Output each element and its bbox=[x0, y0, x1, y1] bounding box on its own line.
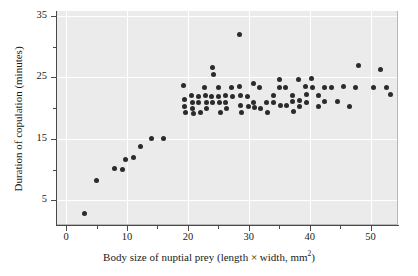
x-tick-minor bbox=[218, 226, 219, 229]
x-tick-minor bbox=[279, 226, 280, 229]
data-point bbox=[239, 110, 244, 115]
data-point bbox=[271, 100, 276, 105]
data-point bbox=[264, 100, 269, 105]
gridline-vertical bbox=[127, 11, 128, 224]
y-tick-minor bbox=[53, 170, 57, 171]
data-point bbox=[204, 106, 209, 111]
x-tick-label: 30 bbox=[229, 231, 269, 242]
data-point bbox=[252, 105, 257, 110]
data-point bbox=[329, 85, 334, 90]
data-point bbox=[335, 99, 340, 104]
data-point bbox=[190, 106, 195, 111]
gridline-horizontal bbox=[57, 200, 397, 201]
data-point bbox=[120, 167, 125, 172]
y-tick-label: 5 bbox=[17, 193, 47, 204]
data-point bbox=[138, 144, 143, 149]
y-tick-major bbox=[51, 16, 57, 17]
data-point bbox=[229, 85, 234, 90]
y-tick-major bbox=[51, 200, 57, 201]
gridline-vertical bbox=[249, 11, 250, 224]
y-tick-label: 35 bbox=[17, 9, 47, 20]
y-axis-spine bbox=[56, 11, 57, 226]
data-point bbox=[310, 85, 315, 90]
data-point bbox=[304, 92, 309, 97]
data-point bbox=[204, 100, 209, 105]
gridline-horizontal bbox=[57, 77, 397, 78]
data-point bbox=[341, 84, 346, 89]
data-point bbox=[237, 32, 242, 37]
scatter-plot-figure: Body size of nuptial prey (length × widt… bbox=[0, 0, 418, 276]
data-point bbox=[371, 85, 376, 90]
data-point bbox=[258, 106, 263, 111]
gridline-horizontal bbox=[57, 139, 397, 140]
data-point bbox=[218, 110, 223, 115]
x-tick-minor bbox=[97, 226, 98, 229]
data-point bbox=[203, 93, 208, 98]
data-point bbox=[224, 106, 229, 111]
data-point bbox=[210, 100, 215, 105]
x-axis-label-text: Body size of nuptial prey (length × widt… bbox=[103, 251, 307, 263]
data-point bbox=[296, 77, 301, 82]
data-point bbox=[388, 92, 393, 97]
x-tick-label: 50 bbox=[351, 231, 391, 242]
data-point bbox=[230, 94, 235, 99]
x-tick-label: 40 bbox=[290, 231, 330, 242]
gridline-vertical bbox=[188, 11, 189, 224]
x-axis-spine bbox=[56, 225, 399, 226]
data-point bbox=[251, 81, 256, 86]
data-point bbox=[378, 67, 383, 72]
y-tick-minor bbox=[53, 47, 57, 48]
y-tick-major bbox=[51, 139, 57, 140]
x-tick-minor bbox=[157, 226, 158, 229]
x-tick-label: 0 bbox=[46, 231, 86, 242]
gridline-vertical bbox=[310, 11, 311, 224]
x-tick-label: 10 bbox=[107, 231, 147, 242]
data-point bbox=[384, 85, 389, 90]
gridline-vertical bbox=[66, 11, 67, 224]
data-point bbox=[216, 85, 221, 90]
plot-panel bbox=[57, 11, 398, 225]
y-tick-label: 15 bbox=[17, 132, 47, 143]
data-point bbox=[290, 93, 295, 98]
gridline-vertical bbox=[371, 11, 372, 224]
data-point bbox=[183, 110, 188, 115]
data-point bbox=[322, 85, 327, 90]
data-point bbox=[198, 110, 203, 115]
data-point bbox=[190, 100, 195, 105]
x-tick-minor bbox=[340, 226, 341, 229]
data-point bbox=[182, 97, 187, 102]
data-point bbox=[196, 94, 201, 99]
y-tick-label: 25 bbox=[17, 70, 47, 81]
data-point bbox=[304, 100, 309, 105]
x-tick-label: 20 bbox=[168, 231, 208, 242]
gridline-horizontal bbox=[57, 16, 397, 17]
y-tick-major bbox=[51, 77, 57, 78]
x-axis-label-tail: ) bbox=[311, 251, 315, 263]
data-point bbox=[251, 100, 256, 105]
data-point bbox=[223, 100, 228, 105]
x-axis-label: Body size of nuptial prey (length × widt… bbox=[0, 249, 418, 263]
data-point bbox=[265, 110, 270, 115]
y-tick-minor bbox=[53, 108, 57, 109]
data-point bbox=[191, 111, 196, 116]
data-point bbox=[223, 93, 228, 98]
data-point bbox=[131, 155, 136, 160]
